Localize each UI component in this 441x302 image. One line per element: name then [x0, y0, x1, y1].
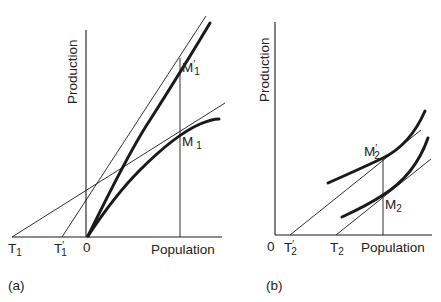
panel-a-caption: (a) [8, 278, 25, 293]
panel-a-lower-production-curve [88, 119, 219, 236]
panel-b-point-t2-prime-label: T′2 [284, 239, 297, 257]
panel-b-caption: (b) [266, 278, 283, 293]
panel-a-point-m1-label: M1 [182, 134, 202, 151]
panel-a-point-t1-label: T1 [8, 241, 22, 258]
panel-a-origin-label: 0 [83, 240, 91, 255]
panel-a: Production Population 0 T1 T′1 M′1 M1 (a… [8, 16, 225, 293]
panel-b-point-m2-prime-label: M′2 [364, 143, 380, 161]
panel-a-point-m1-prime-label: M′1 [182, 59, 200, 77]
panel-b-point-m2-label: M2 [385, 197, 402, 214]
panel-a-x-axis-label: Population [151, 242, 215, 257]
panel-a-y-axis-label: Production [65, 39, 80, 104]
panel-b-point-t2-label: T2 [330, 240, 344, 257]
panel-a-point-t1-prime-label: T′1 [54, 240, 67, 258]
panel-b: Production Population 0 T′2 T2 M′2 M2 (b… [257, 22, 432, 293]
panel-b-x-axis-label: Population [361, 240, 425, 255]
panel-b-origin-label: 0 [267, 239, 275, 254]
production-population-diagram: Production Population 0 T1 T′1 M′1 M1 (a… [0, 0, 441, 302]
panel-b-y-axis-label: Production [257, 37, 272, 102]
panel-a-tangent-t1-prime [62, 16, 206, 237]
panel-b-tangent-t2 [336, 159, 431, 235]
panel-a-tangent-t1 [12, 103, 225, 237]
